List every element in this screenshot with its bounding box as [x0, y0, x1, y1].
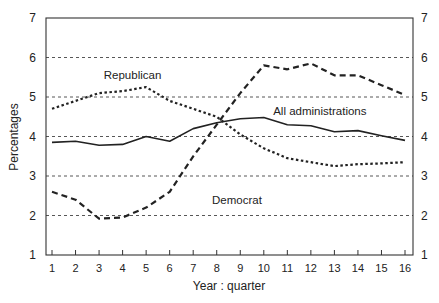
x-tick-label: 2 — [72, 262, 78, 274]
y-tick-label-left: 7 — [29, 11, 36, 25]
y-tick-label-right: 1 — [421, 248, 428, 262]
y-tick-label-left: 5 — [29, 90, 36, 104]
y-tick-label-left: 4 — [29, 130, 36, 144]
y-tick-label-left: 6 — [29, 51, 36, 65]
y-tick-label-left: 3 — [29, 169, 36, 183]
x-tick-label: 10 — [258, 262, 270, 274]
x-tick-label: 3 — [96, 262, 102, 274]
label-democrat: Democrat — [212, 194, 263, 206]
x-tick-label: 7 — [190, 262, 196, 274]
label-republican: Republican — [104, 69, 162, 81]
y-tick-label-right: 6 — [421, 51, 428, 65]
y-tick-label-right: 4 — [421, 130, 428, 144]
x-tick-label: 8 — [214, 262, 220, 274]
y-axis-label: Percentages — [7, 103, 21, 170]
x-tick-label: 12 — [305, 262, 317, 274]
x-tick-label: 6 — [167, 262, 173, 274]
y-tick-label-left: 2 — [29, 209, 36, 223]
series-republican — [52, 87, 405, 166]
x-tick-label: 4 — [120, 262, 126, 274]
line-chart: 1122334455667712345678910111213141516 Re… — [0, 0, 439, 303]
label-all-administrations: All administrations — [273, 105, 367, 117]
y-tick-label-left: 1 — [29, 248, 36, 262]
y-tick-label-right: 3 — [421, 169, 428, 183]
x-axis-label: Year : quarter — [193, 279, 265, 293]
x-tick-label: 9 — [237, 262, 243, 274]
y-tick-label-right: 2 — [421, 209, 428, 223]
gridlines — [46, 58, 413, 216]
x-tick-label: 11 — [282, 262, 293, 274]
x-tick-label: 14 — [352, 262, 364, 274]
x-tick-label: 13 — [328, 262, 340, 274]
x-tick-label: 1 — [49, 262, 55, 274]
x-tick-label: 15 — [375, 262, 387, 274]
series-all-administrations — [52, 118, 405, 146]
axes: 1122334455667712345678910111213141516 — [29, 11, 428, 274]
y-tick-label-right: 5 — [421, 90, 428, 104]
x-tick-label: 5 — [143, 262, 149, 274]
y-tick-label-right: 7 — [421, 11, 428, 25]
x-tick-label: 16 — [399, 262, 411, 274]
